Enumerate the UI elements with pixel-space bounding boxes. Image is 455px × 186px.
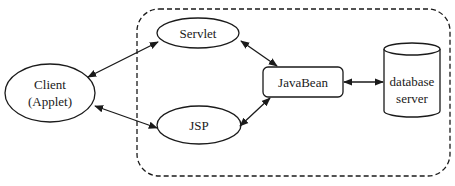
edge-jsp-javabean: [240, 98, 270, 126]
javabean-label: JavaBean: [278, 75, 328, 90]
servlet-node: Servlet: [157, 18, 239, 48]
client-ellipse: [5, 64, 95, 122]
diagram-svg: Client (Applet) Servlet JSP JavaBean dat…: [0, 0, 455, 186]
database-label-line2: server: [396, 91, 428, 106]
edge-servlet-javabean: [241, 41, 277, 66]
client-node: Client (Applet): [5, 64, 95, 122]
database-cylinder-top: [384, 43, 440, 55]
javabean-node: JavaBean: [263, 67, 343, 97]
jsp-label: JSP: [189, 118, 209, 133]
jsp-node: JSP: [157, 106, 241, 144]
client-label-line1: Client: [34, 77, 66, 92]
database-label-line1: database: [390, 74, 435, 89]
edge-client-jsp: [95, 106, 157, 128]
edge-client-servlet: [88, 42, 158, 77]
database-node: database server: [384, 43, 440, 117]
client-label-line2: (Applet): [28, 94, 72, 109]
architecture-diagram: Client (Applet) Servlet JSP JavaBean dat…: [0, 0, 455, 186]
servlet-label: Servlet: [180, 26, 217, 41]
